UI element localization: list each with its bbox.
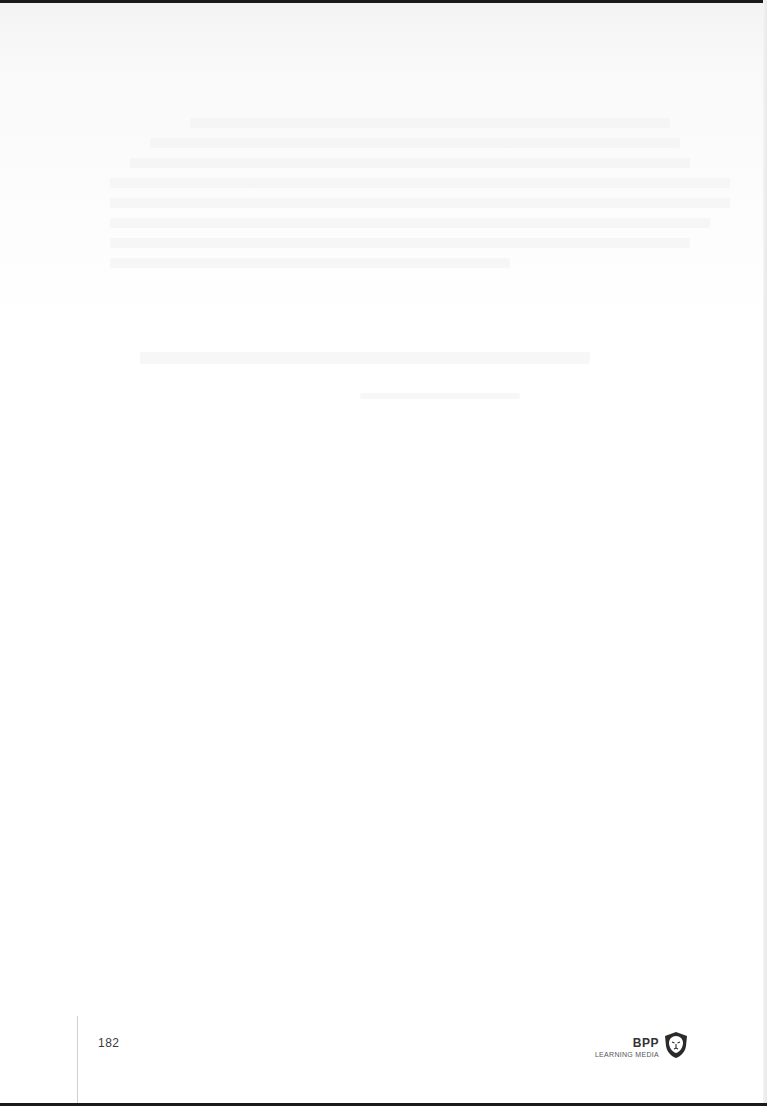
margin-rule — [77, 1016, 78, 1106]
bleed-through-text — [140, 352, 590, 364]
bleed-through-text — [360, 393, 520, 399]
page-top-edge — [0, 0, 767, 3]
logo-brand: BPP — [633, 1037, 659, 1049]
document-page: 182 BPP LEARNING MEDIA — [0, 0, 767, 1106]
logo-subtitle: LEARNING MEDIA — [595, 1051, 659, 1058]
lion-shield-icon — [663, 1031, 689, 1063]
bleed-through-text — [110, 198, 730, 208]
publisher-logo-text: BPP LEARNING MEDIA — [595, 1037, 659, 1058]
bleed-through-text — [150, 138, 680, 148]
publisher-logo: BPP LEARNING MEDIA — [595, 1031, 689, 1063]
bleed-through-text — [110, 178, 730, 188]
page-number: 182 — [98, 1036, 120, 1050]
bleed-through-text — [190, 118, 670, 128]
page-right-edge — [763, 0, 767, 1106]
bleed-through-text — [110, 258, 510, 268]
bleed-through-text — [110, 238, 690, 248]
bleed-through-text — [130, 158, 690, 168]
bleed-through-text — [110, 218, 710, 228]
